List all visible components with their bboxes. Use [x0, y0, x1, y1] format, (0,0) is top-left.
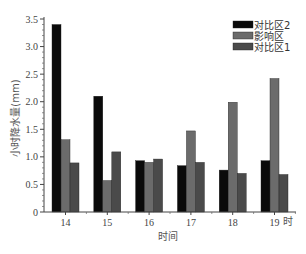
legend-label: 对比区2	[254, 19, 290, 31]
legend-swatch	[233, 32, 253, 39]
y-tick-label: 3.0	[26, 41, 39, 52]
y-tick-label: 2.0	[26, 96, 39, 107]
bar-17-1	[177, 166, 186, 212]
legend: 对比区2影响区对比区1	[233, 19, 290, 53]
bars-layer	[52, 25, 288, 212]
bar-17-2	[186, 131, 195, 212]
bar-14-3	[70, 163, 79, 212]
bar-18-2	[228, 102, 237, 212]
x-tick-label: 17	[186, 217, 196, 228]
y-axis-title: 小时降水量(mm)	[9, 79, 21, 156]
legend-label: 对比区1	[254, 41, 290, 53]
bar-18-1	[219, 170, 228, 212]
y-tick-label: 1.5	[26, 124, 39, 135]
bar-14-1	[52, 25, 61, 212]
x-tick-label: 15	[102, 217, 112, 228]
legend-swatch	[233, 21, 253, 28]
y-tick-label: 2.5	[26, 69, 39, 80]
x-axis-title: 时间	[158, 230, 178, 242]
bar-chart: 00.51.01.52.02.53.03.5141516171819 对比区2影…	[0, 0, 306, 254]
bar-15-3	[112, 152, 121, 212]
x-tick-label: 14	[61, 217, 71, 228]
bar-15-1	[94, 96, 103, 212]
bar-14-2	[61, 140, 70, 212]
x-tick-label: 19	[270, 217, 280, 228]
y-tick-label: 3.5	[26, 14, 39, 25]
bar-19-1	[261, 161, 270, 212]
bar-16-1	[136, 161, 145, 212]
bar-16-3	[154, 159, 163, 212]
y-tick-label: 0.5	[26, 179, 39, 190]
bar-15-2	[103, 181, 112, 212]
x-tick-label: 18	[228, 217, 238, 228]
bar-17-3	[195, 162, 204, 212]
legend-swatch	[233, 43, 253, 50]
x-tick-label: 16	[144, 217, 154, 228]
bar-19-2	[270, 79, 279, 212]
y-tick-label: 1.0	[26, 151, 39, 162]
y-tick-label: 0	[33, 207, 38, 218]
bar-18-3	[237, 173, 246, 212]
bar-16-2	[145, 162, 154, 212]
legend-label: 影响区	[254, 30, 284, 42]
bar-19-3	[279, 175, 288, 212]
x-axis-unit: 时	[283, 216, 293, 227]
